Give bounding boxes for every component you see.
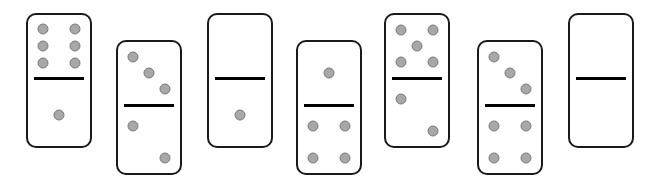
domino-bottom-half [28,84,90,146]
pip-icon [324,68,335,79]
domino-2[interactable] [116,40,182,175]
domino-divider [215,77,265,80]
pip-icon [54,110,65,121]
pip-icon [340,153,351,164]
pip-icon [235,110,246,121]
pip-icon [70,41,81,52]
pip-icon [396,94,407,105]
domino-top-half [118,42,180,104]
pip-icon [428,57,439,68]
pip-icon [521,84,532,95]
domino-top-half [298,42,360,104]
pip-icon [70,58,81,69]
domino-divider [392,77,442,80]
pip-icon [160,153,171,164]
pip-icon [128,121,139,132]
domino-divider [485,104,535,107]
domino-top-half [570,15,632,77]
pip-icon [308,153,319,164]
pip-icon [396,57,407,68]
pip-icon [489,121,500,132]
pip-icon [489,52,500,63]
pip-icon [308,121,319,132]
domino-top-half [209,15,271,77]
pip-icon [428,25,439,36]
pip-icon [38,41,49,52]
pip-icon [340,121,351,132]
pip-icon [489,153,500,164]
pip-icon [144,68,155,79]
pip-icon [396,25,407,36]
domino-bottom-half [298,111,360,173]
domino-divider [576,77,626,80]
domino-3[interactable] [207,13,273,148]
domino-bottom-half [386,84,448,146]
domino-divider [34,77,84,80]
domino-7[interactable] [568,13,634,148]
domino-divider [124,104,174,107]
domino-bottom-half [118,111,180,173]
domino-6[interactable] [477,40,543,175]
pip-icon [521,121,532,132]
pip-icon [428,126,439,137]
domino-bottom-half [570,84,632,146]
domino-bottom-half [209,84,271,146]
domino-top-half [386,15,448,77]
pip-icon [38,24,49,35]
pip-icon [38,58,49,69]
pip-icon [521,153,532,164]
domino-1[interactable] [26,13,92,148]
domino-5[interactable] [384,13,450,148]
pip-icon [160,84,171,95]
pip-icon [128,52,139,63]
pip-icon [70,24,81,35]
domino-top-half [28,15,90,77]
domino-divider [304,104,354,107]
domino-4[interactable] [296,40,362,175]
domino-bottom-half [479,111,541,173]
pip-icon [412,41,423,52]
domino-top-half [479,42,541,104]
pip-icon [505,68,516,79]
